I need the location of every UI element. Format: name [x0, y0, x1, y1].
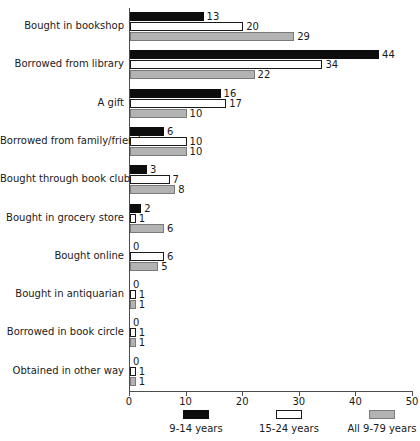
bar[interactable] [130, 262, 158, 271]
bar[interactable] [130, 137, 187, 146]
legend-item[interactable]: All 9-79 years [335, 410, 420, 435]
bar-value-label: 29 [297, 30, 310, 43]
bar-group: Bought in antiquarian011 [0, 276, 420, 314]
bar-row: 2 [130, 204, 413, 213]
category-label: Bought in antiquarian [0, 287, 124, 300]
grouped-bar-chart: 01020304050 Bought in bookshop132029Borr… [0, 0, 420, 441]
legend-swatch-icon [369, 410, 395, 419]
bar-row: 1 [130, 290, 413, 299]
bar-value-label: 1 [139, 375, 145, 388]
legend-label: All 9-79 years [335, 422, 420, 435]
bar-value-label: 10 [190, 145, 203, 158]
bar[interactable] [130, 377, 136, 386]
bar-group: Borrowed from library443422 [0, 46, 420, 84]
category-label: Bought in grocery store [0, 211, 124, 224]
category-label: Borrowed from family/friend [0, 134, 124, 147]
bar[interactable] [130, 290, 136, 299]
bar-row: 20 [130, 22, 413, 31]
bar-row: 29 [130, 32, 413, 41]
bar-value-label: 22 [258, 68, 271, 81]
category-label: Bought online [0, 249, 124, 262]
bar-row: 44 [130, 50, 413, 59]
bar-group: Bought through book club378 [0, 161, 420, 199]
legend-label: 15-24 years [242, 422, 336, 435]
bar-group: Borrowed in book circle011 [0, 314, 420, 352]
bar-row: 0 [130, 357, 413, 366]
bar-group: A gift161710 [0, 85, 420, 123]
bar-row: 6 [130, 224, 413, 233]
bar-group: Bought online065 [0, 238, 420, 276]
bar-row: 13 [130, 12, 413, 21]
bar[interactable] [130, 300, 136, 309]
bar[interactable] [130, 60, 322, 69]
bar-row: 22 [130, 70, 413, 79]
bar[interactable] [130, 328, 136, 337]
category-label: Obtained in other way [0, 364, 124, 377]
legend-label: 9-14 years [149, 422, 243, 435]
bar[interactable] [130, 70, 255, 79]
bar-row: 0 [130, 318, 413, 327]
legend-swatch-icon [183, 410, 209, 419]
category-label: Borrowed in book circle [0, 325, 124, 338]
bar-row: 1 [130, 338, 413, 347]
bar-row: 10 [130, 109, 413, 118]
bar[interactable] [130, 109, 187, 118]
bar[interactable] [130, 32, 294, 41]
legend-item[interactable]: 9-14 years [149, 410, 243, 435]
bar-row: 10 [130, 137, 413, 146]
bar[interactable] [130, 22, 243, 31]
bar-group: Borrowed from family/friend61010 [0, 123, 420, 161]
bar-value-label: 1 [139, 336, 145, 349]
category-label: Borrowed from library [0, 57, 124, 70]
x-axis-line [129, 391, 413, 392]
x-tick-label: 10 [166, 396, 206, 407]
bar[interactable] [130, 127, 164, 136]
bar[interactable] [130, 214, 136, 223]
bar[interactable] [130, 224, 164, 233]
bar-row: 1 [130, 300, 413, 309]
bar[interactable] [130, 89, 221, 98]
bar[interactable] [130, 252, 164, 261]
bar-row: 1 [130, 367, 413, 376]
bar-value-label: 10 [190, 107, 203, 120]
bar-row: 34 [130, 60, 413, 69]
bar-group: Obtained in other way011 [0, 353, 420, 391]
legend-swatch-icon [276, 410, 302, 419]
bar[interactable] [130, 367, 136, 376]
x-tick-label: 30 [279, 396, 319, 407]
bar-row: 10 [130, 147, 413, 156]
x-tick-label: 20 [222, 396, 262, 407]
plot-area: 01020304050 Bought in bookshop132029Borr… [0, 0, 420, 441]
chart-legend: 9-14 years15-24 yearsAll 9-79 years [129, 410, 413, 441]
bar-value-label: 6 [167, 222, 173, 235]
bar-value-label: 8 [178, 183, 184, 196]
bar-value-label: 5 [161, 260, 167, 273]
bar[interactable] [130, 50, 379, 59]
bar-row: 17 [130, 99, 413, 108]
bar-row: 1 [130, 328, 413, 337]
category-label: A gift [0, 96, 124, 109]
category-label: Bought through book club [0, 172, 124, 185]
bar[interactable] [130, 12, 204, 21]
bar-row: 6 [130, 127, 413, 136]
bar-row: 8 [130, 185, 413, 194]
x-tick-label: 0 [109, 396, 149, 407]
bar-group: Bought in grocery store216 [0, 200, 420, 238]
legend-item[interactable]: 15-24 years [242, 410, 336, 435]
bar-value-label: 1 [139, 298, 145, 311]
bar-row: 0 [130, 280, 413, 289]
bar[interactable] [130, 99, 226, 108]
bar[interactable] [130, 165, 147, 174]
bar[interactable] [130, 185, 175, 194]
bar-row: 1 [130, 377, 413, 386]
bar[interactable] [130, 147, 187, 156]
bar[interactable] [130, 175, 170, 184]
bar-row: 7 [130, 175, 413, 184]
x-tick-label: 40 [335, 396, 375, 407]
bar-row: 16 [130, 89, 413, 98]
bar[interactable] [130, 338, 136, 347]
bar-group: Bought in bookshop132029 [0, 8, 420, 46]
category-label: Bought in bookshop [0, 19, 124, 32]
bar-row: 5 [130, 262, 413, 271]
bar-row: 6 [130, 252, 413, 261]
